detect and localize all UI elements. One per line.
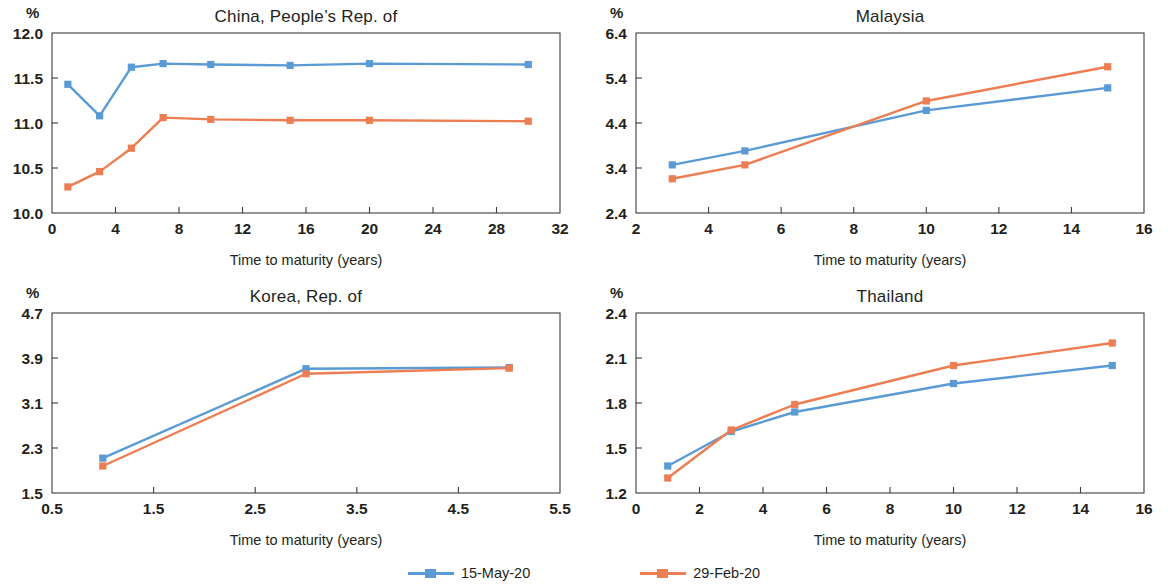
x-tick-label: 4	[759, 500, 768, 517]
y-axis-unit-label: %	[610, 284, 623, 301]
x-tick-label: 16	[297, 220, 315, 237]
x-tick-label: 2	[632, 220, 641, 237]
legend-item: 29-Feb-20	[640, 565, 760, 581]
chart-legend: 15-May-20 29-Feb-20	[0, 558, 1168, 588]
x-tick-label: 24	[424, 220, 442, 237]
data-point-marker	[525, 61, 532, 68]
x-tick-label: 12	[234, 220, 251, 237]
y-tick-label: 10.0	[13, 205, 43, 222]
data-point-marker	[287, 62, 294, 69]
chart-title: Korea, Rep. of	[250, 287, 362, 306]
plot-frame	[636, 313, 1144, 493]
data-point-marker	[950, 380, 957, 387]
legend-item-label: 29-Feb-20	[693, 565, 760, 581]
x-tick-label: 20	[361, 220, 378, 237]
x-tick-label: 12	[1008, 500, 1025, 517]
data-point-marker	[160, 60, 167, 67]
series-line	[68, 118, 528, 187]
y-tick-label: 1.2	[605, 485, 627, 502]
data-point-marker	[1109, 339, 1116, 346]
data-point-marker	[207, 116, 214, 123]
x-tick-label: 28	[488, 220, 506, 237]
data-point-marker	[287, 117, 294, 124]
chart-panel-china: %China, People’s Rep. of10.010.511.011.5…	[0, 0, 584, 280]
data-point-marker	[64, 183, 71, 190]
legend-swatch-icon	[640, 568, 686, 579]
y-axis-unit-label: %	[610, 4, 623, 21]
y-tick-label: 2.3	[21, 440, 43, 457]
x-tick-label: 0.5	[41, 500, 63, 517]
data-point-marker	[669, 161, 676, 168]
series-line	[68, 64, 528, 116]
x-axis-title: Time to maturity (years)	[814, 532, 967, 548]
data-point-marker	[99, 455, 106, 462]
y-tick-label: 3.1	[21, 395, 43, 412]
x-tick-label: 16	[1135, 220, 1153, 237]
data-point-marker	[64, 81, 71, 88]
y-tick-label: 1.8	[605, 395, 627, 412]
legend-item: 15-May-20	[408, 565, 530, 581]
y-tick-label: 5.4	[605, 70, 627, 87]
x-axis-title: Time to maturity (years)	[230, 532, 383, 548]
data-point-marker	[128, 145, 135, 152]
data-point-marker	[207, 61, 214, 68]
series-line	[103, 368, 509, 459]
data-point-marker	[96, 112, 103, 119]
x-tick-label: 3.5	[346, 500, 368, 517]
series-line	[103, 368, 509, 466]
data-point-marker	[791, 408, 798, 415]
y-tick-label: 12.0	[13, 25, 43, 42]
y-tick-label: 3.4	[605, 160, 627, 177]
x-tick-label: 8	[175, 220, 184, 237]
chart-title: Malaysia	[856, 7, 925, 26]
y-tick-label: 6.4	[605, 25, 627, 42]
y-tick-label: 2.4	[605, 205, 627, 222]
data-point-marker	[923, 107, 930, 114]
data-point-marker	[791, 401, 798, 408]
data-point-marker	[664, 474, 671, 481]
x-tick-label: 5.5	[549, 500, 571, 517]
data-point-marker	[923, 97, 930, 104]
y-tick-label: 2.4	[605, 305, 627, 322]
y-tick-label: 10.5	[13, 160, 44, 177]
y-tick-label: 4.7	[21, 305, 43, 322]
data-point-marker	[96, 168, 103, 175]
chart-title: Thailand	[857, 287, 924, 306]
x-axis-title: Time to maturity (years)	[814, 252, 967, 268]
y-tick-label: 1.5	[21, 485, 43, 502]
y-tick-label: 3.9	[21, 350, 43, 367]
x-tick-label: 1.5	[143, 500, 165, 517]
y-tick-label: 2.1	[605, 350, 627, 367]
plot-frame	[52, 33, 560, 213]
plot-frame	[52, 313, 560, 493]
data-point-marker	[741, 161, 748, 168]
y-axis-unit-label: %	[26, 284, 39, 301]
x-tick-label: 12	[990, 220, 1007, 237]
x-tick-label: 8	[849, 220, 858, 237]
x-tick-label: 8	[886, 500, 895, 517]
x-tick-label: 6	[777, 220, 786, 237]
y-tick-label: 11.5	[14, 70, 44, 87]
x-tick-label: 32	[551, 220, 568, 237]
x-tick-label: 6	[822, 500, 831, 517]
x-tick-label: 4	[704, 220, 713, 237]
legend-swatch-icon	[408, 568, 454, 579]
x-axis-title: Time to maturity (years)	[230, 252, 383, 268]
chart-panel-thailand: %Thailand1.21.51.82.12.40246810121416Tim…	[584, 280, 1168, 560]
x-tick-label: 0	[48, 220, 57, 237]
chart-panel-malaysia: %Malaysia2.43.44.45.46.4246810121416Time…	[584, 0, 1168, 280]
data-point-marker	[1104, 63, 1111, 70]
data-point-marker	[302, 370, 309, 377]
data-point-marker	[664, 462, 671, 469]
y-tick-label: 4.4	[605, 115, 627, 132]
y-axis-unit-label: %	[26, 4, 39, 21]
x-tick-label: 2.5	[244, 500, 266, 517]
data-point-marker	[1109, 362, 1116, 369]
data-point-marker	[366, 60, 373, 67]
data-point-marker	[366, 117, 373, 124]
chart-panel-korea: %Korea, Rep. of1.52.33.13.94.70.51.52.53…	[0, 280, 584, 560]
x-tick-label: 10	[918, 220, 935, 237]
series-line	[668, 343, 1113, 478]
series-line	[672, 88, 1107, 165]
data-point-marker	[128, 64, 135, 71]
